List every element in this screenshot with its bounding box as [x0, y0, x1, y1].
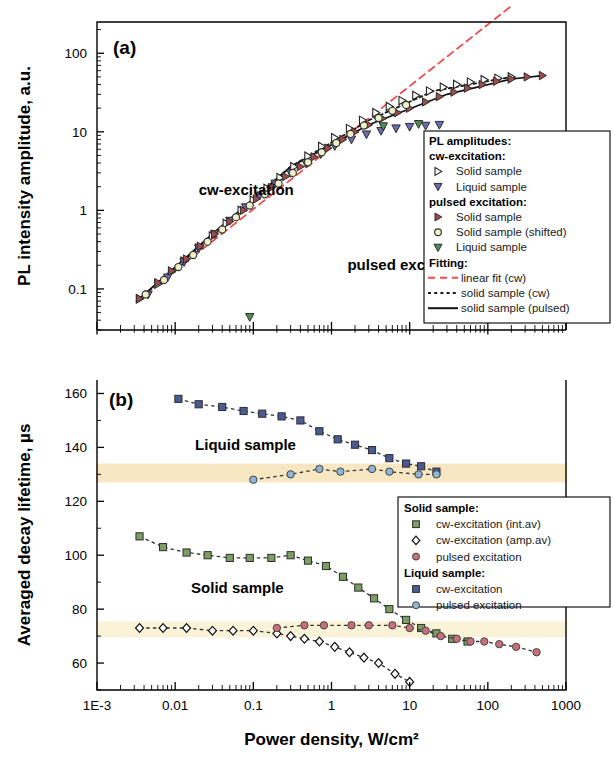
data-marker — [386, 606, 393, 613]
data-marker — [175, 263, 182, 270]
marker-square-filled — [195, 401, 202, 408]
legend-a-group-pulsed: pulsed excitation: — [429, 196, 527, 208]
data-marker — [467, 78, 474, 86]
marker-circle-open — [347, 130, 354, 137]
data-marker — [413, 586, 420, 593]
marker-square-filled — [226, 554, 233, 561]
data-marker — [337, 468, 344, 475]
legend-a-item-fit-0: linear fit (cw) — [461, 272, 526, 284]
panel-a-ylabel: PL intensity amplitude, a.u. — [15, 66, 34, 286]
legend-b-item-solid-0: cw-excitation (int.av) — [436, 518, 541, 530]
data-marker — [142, 291, 149, 298]
data-marker — [481, 638, 488, 645]
data-marker — [403, 101, 410, 108]
data-marker — [315, 637, 323, 646]
marker-circle-filled — [467, 638, 474, 645]
data-marker — [418, 463, 425, 470]
marker-circle-filled — [368, 465, 375, 472]
marker-circle-filled — [337, 468, 344, 475]
panel-a-points — [246, 121, 423, 322]
data-marker — [347, 130, 354, 137]
data-marker — [539, 71, 546, 79]
marker-diamond-open — [315, 637, 323, 646]
y-tick-label-a: 10 — [72, 125, 87, 140]
marker-right-triangle-filled — [436, 92, 443, 100]
data-marker — [219, 226, 226, 233]
legend-b-item-solid-2: pulsed excitation — [436, 551, 522, 563]
data-marker — [289, 169, 296, 176]
marker-circle-filled — [433, 471, 440, 478]
panel-a-annotation-0: cw-excitation — [199, 181, 294, 198]
marker-square-filled — [297, 417, 304, 424]
data-marker — [334, 436, 341, 443]
plot-area: 1001010.116014012010080601E-30.010.11101… — [15, 6, 610, 749]
marker-square-filled — [183, 549, 190, 556]
marker-diamond-open — [391, 669, 399, 678]
data-marker — [437, 632, 444, 639]
marker-down-triangle-filled — [435, 121, 443, 129]
marker-right-triangle-open — [440, 83, 447, 91]
marker-circle-open — [304, 159, 311, 166]
marker-square-filled — [370, 595, 377, 602]
y-tick-label-b: 140 — [64, 440, 87, 455]
marker-circle-open — [389, 107, 396, 114]
marker-right-triangle-filled — [524, 73, 531, 81]
data-marker — [391, 669, 399, 678]
data-marker — [346, 648, 354, 657]
x-axis-label: Power density, W/cm² — [244, 730, 419, 749]
marker-circle-filled — [533, 649, 540, 656]
data-marker — [287, 471, 294, 478]
marker-circle-open — [360, 122, 367, 129]
legend-a-title: PL amplitudes: — [429, 135, 511, 147]
y-tick-label-a: 100 — [64, 46, 87, 61]
marker-circle-open — [403, 101, 410, 108]
marker-square-filled — [316, 428, 323, 435]
marker-circle-open — [435, 229, 442, 236]
marker-diamond-open — [375, 659, 383, 668]
data-marker — [405, 123, 413, 131]
data-marker — [160, 276, 167, 283]
x-tick-label: 1000 — [551, 698, 581, 713]
panel-a-legend: PL amplitudes:cw-excitation:Solid sample… — [424, 131, 610, 323]
data-marker — [360, 653, 368, 662]
data-marker — [360, 122, 367, 129]
marker-circle-filled — [273, 624, 280, 631]
highlight-band-1 — [96, 621, 567, 637]
data-marker — [204, 552, 211, 559]
data-marker — [355, 584, 362, 591]
data-marker — [287, 552, 294, 559]
marker-down-triangle-filled — [405, 123, 413, 131]
marker-down-triangle-filled — [362, 131, 370, 139]
marker-down-triangle-filled — [246, 314, 254, 322]
marker-square-filled — [278, 413, 285, 420]
data-marker — [226, 554, 233, 561]
data-marker — [316, 428, 323, 435]
legend-b-item-liquid-1: pulsed excitation — [436, 599, 522, 611]
x-tick-label: 1 — [328, 698, 336, 713]
marker-square-filled — [136, 533, 143, 540]
marker-square-filled — [413, 521, 420, 528]
marker-diamond-open — [331, 642, 339, 651]
marker-square-filled — [355, 584, 362, 591]
panel-b-legend: Solid sample:cw-excitation (int.av)cw-ex… — [398, 497, 610, 611]
marker-right-triangle-filled — [422, 98, 429, 106]
x-tick-label: 100 — [477, 698, 500, 713]
data-marker — [412, 602, 419, 609]
data-marker — [183, 549, 190, 556]
data-marker — [246, 554, 253, 561]
marker-circle-filled — [437, 632, 444, 639]
data-marker — [339, 573, 346, 580]
data-marker — [278, 413, 285, 420]
marker-down-triangle-filled — [392, 125, 400, 133]
x-tick-label: 1E-3 — [83, 698, 112, 713]
legend-a-item-pulsed-1: Solid sample (shifted) — [456, 226, 567, 238]
marker-square-filled — [175, 395, 182, 402]
marker-circle-open — [318, 149, 325, 156]
marker-circle-open — [142, 291, 149, 298]
data-marker — [301, 622, 308, 629]
marker-circle-filled — [453, 635, 460, 642]
data-marker — [392, 125, 400, 133]
marker-circle-open — [232, 214, 239, 221]
data-marker — [351, 441, 358, 448]
marker-down-triangle-filled — [414, 121, 422, 129]
